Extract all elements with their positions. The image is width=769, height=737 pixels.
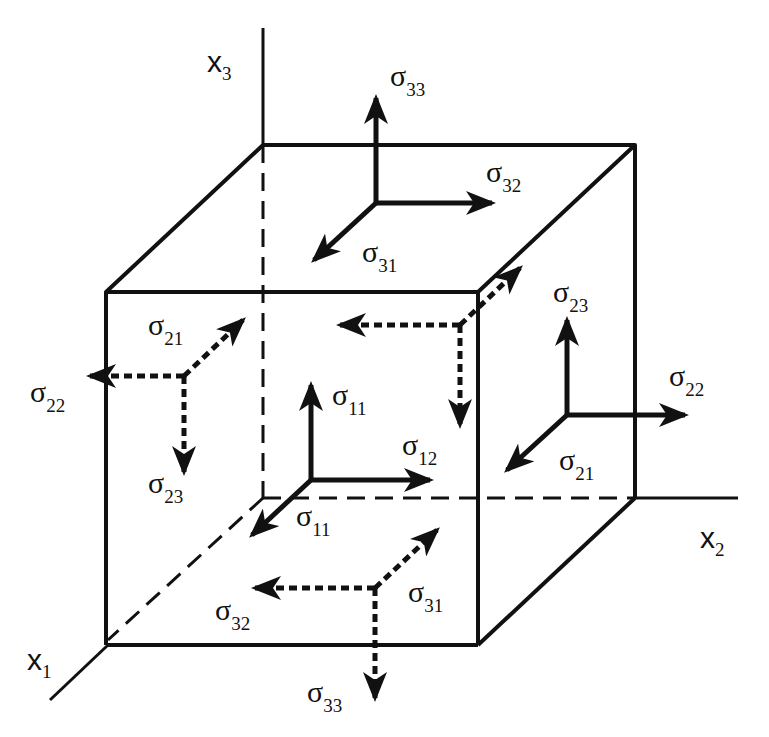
label-right-shear-b: σ21 bbox=[559, 443, 594, 484]
label-bottom-shear-a: σ32 bbox=[215, 593, 250, 634]
top-face-stresses bbox=[314, 98, 492, 260]
label-front-shear-a: σ12 bbox=[402, 428, 437, 469]
label-right-shear-a: σ23 bbox=[553, 275, 588, 316]
x2-label: x2 bbox=[700, 521, 725, 560]
label-top-normal: σ33 bbox=[390, 59, 425, 100]
right-face-stresses bbox=[507, 320, 685, 470]
x1-axis bbox=[50, 645, 108, 700]
x1-label: x1 bbox=[27, 643, 52, 682]
label-top-shear-a: σ32 bbox=[486, 155, 521, 196]
cube-bottom-right-edge bbox=[478, 498, 635, 645]
label-left-normal: σ22 bbox=[30, 375, 65, 416]
label-front-shear-b: σ11 bbox=[296, 499, 330, 540]
label-left-shear-a: σ21 bbox=[148, 308, 183, 349]
label-top-shear-b: σ31 bbox=[362, 235, 397, 276]
bottom-hidden-face-stresses bbox=[255, 530, 437, 698]
label-right-normal: σ22 bbox=[669, 359, 704, 400]
cube-top-face bbox=[106, 145, 635, 292]
label-front-normal: σ11 bbox=[332, 378, 366, 419]
label-bottom-shear-b: σ31 bbox=[408, 575, 443, 616]
stress-cube-diagram: x3 x2 x1 σ33 σ32 σ31 σ11 σ12 σ11 σ23 σ22… bbox=[0, 0, 769, 737]
label-bottom-normal: σ33 bbox=[307, 675, 342, 716]
x3-label: x3 bbox=[207, 45, 232, 84]
label-left-shear-b: σ23 bbox=[148, 466, 183, 507]
